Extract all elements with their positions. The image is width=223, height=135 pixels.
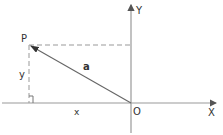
- x-component-label: x: [74, 107, 80, 117]
- vector-a-label: a: [83, 61, 90, 72]
- point-p-label: P: [21, 33, 27, 44]
- origin-label: O: [133, 106, 141, 117]
- x-axis-label: X: [208, 107, 215, 118]
- y-axis-label: Y: [135, 5, 143, 16]
- y-component-label: y: [19, 69, 25, 80]
- diagram-canvas: P a y x O X Y: [0, 0, 223, 135]
- right-angle-marker: [29, 96, 33, 103]
- vector-a: [31, 46, 131, 103]
